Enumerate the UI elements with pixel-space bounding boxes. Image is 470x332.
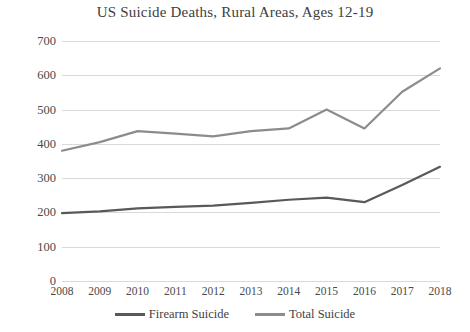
legend-item[interactable]: Total Suicide [255,308,355,321]
chart-title: US Suicide Deaths, Rural Areas, Ages 12-… [0,4,470,21]
x-axis-tick-label: 2013 [240,286,263,298]
y-axis-tick-labels: 7006005004003002001000 [0,41,56,281]
x-axis-tick-label: 2016 [353,286,376,298]
legend-label: Firearm Suicide [149,308,229,321]
series-line-firearm-suicide [62,167,440,213]
legend-line-swatch-icon [115,313,145,316]
chart-legend: Firearm SuicideTotal Suicide [0,308,470,321]
y-axis-tick-label: 500 [0,103,56,116]
y-axis-tick-label: 200 [0,206,56,219]
x-axis-tick-label: 2009 [88,286,111,298]
series-line-total-suicide [62,68,440,150]
x-axis-tick-labels: 2008200920102011201220132014201520162017… [62,286,440,304]
legend-label: Total Suicide [289,308,355,321]
legend-line-swatch-icon [255,313,285,316]
y-axis-tick-label: 700 [0,35,56,48]
gridline [62,281,440,282]
x-axis-tick-label: 2014 [277,286,300,298]
x-axis-tick-label: 2018 [429,286,452,298]
chart-container: US Suicide Deaths, Rural Areas, Ages 12-… [0,0,470,332]
y-axis-tick-label: 100 [0,240,56,253]
y-axis-tick-label: 400 [0,138,56,151]
x-axis-tick-label: 2017 [391,286,414,298]
y-axis-tick-label: 600 [0,69,56,82]
x-axis-tick-label: 2011 [164,286,187,298]
y-axis-tick-label: 0 [0,275,56,288]
plot-area [62,41,440,281]
y-axis-tick-label: 300 [0,172,56,185]
x-axis-tick-label: 2012 [202,286,225,298]
legend-item[interactable]: Firearm Suicide [115,308,229,321]
x-axis-tick-label: 2015 [315,286,338,298]
series-layer [62,41,440,281]
x-axis-tick-label: 2008 [51,286,74,298]
x-axis-tick-label: 2010 [126,286,149,298]
